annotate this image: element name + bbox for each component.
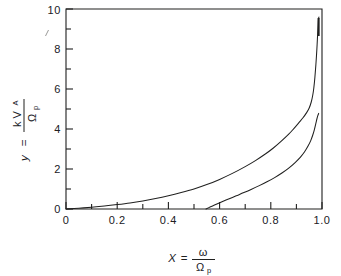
y-axis-title-variable: y (18, 154, 30, 162)
x-axis-title-variable: X (167, 252, 177, 264)
y-tick-labels: 0 2 4 6 8 10 (48, 4, 61, 215)
curve-upper-branch (66, 17, 319, 209)
y-tick-label: 8 (54, 43, 61, 55)
data-curves (66, 17, 319, 209)
x-tick-label: 0.4 (160, 214, 177, 226)
x-tick-label: 0 (63, 214, 70, 226)
x-axis-title-denominator: Ω (196, 261, 204, 273)
y-tick-label: 6 (54, 83, 61, 95)
y-tick-label: 2 (54, 163, 61, 175)
dispersion-relation-plot: 0 2 4 6 8 10 0 0.2 0.4 0.6 0.8 1.0 (0, 0, 341, 276)
y-tick-label: 4 (54, 123, 61, 135)
plot-frame (66, 9, 322, 209)
scan-artifact-mark (46, 30, 49, 36)
x-tick-label: 0.8 (262, 214, 279, 226)
figure-container: 0 2 4 6 8 10 0 0.2 0.4 0.6 0.8 1.0 (0, 0, 341, 276)
x-tick-label: 0.2 (109, 214, 126, 226)
y-axis-title-denominator-subscript: p (31, 106, 40, 110)
y-axis-ticks (66, 9, 73, 209)
x-tick-label: 1.0 (313, 214, 330, 226)
x-axis-title-equals: = (181, 252, 188, 264)
x-tick-label: 0.6 (211, 214, 228, 226)
y-axis-title-denominator: Ω (26, 114, 38, 122)
y-axis-title-numerator-subscript: A (11, 100, 20, 105)
y-tick-label: 10 (48, 4, 61, 16)
x-tick-labels: 0 0.2 0.4 0.6 0.8 1.0 (63, 214, 331, 226)
x-axis-title: X = ω Ω p (167, 246, 215, 275)
y-tick-label: 0 (54, 203, 61, 215)
x-axis-title-numerator: ω (199, 246, 208, 258)
curve-lower-branch (206, 113, 319, 209)
x-axis-title-denominator-subscript: p (207, 266, 211, 275)
y-axis-title: y = k V A Ω p (11, 99, 41, 162)
y-axis-title-numerator: k V (11, 110, 23, 127)
y-axis-title-equals: = (18, 139, 30, 146)
